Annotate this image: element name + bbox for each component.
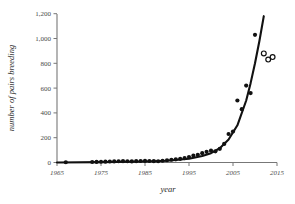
y-tick-label-600: 600 xyxy=(41,85,52,93)
data-point xyxy=(152,159,156,163)
data-point xyxy=(99,160,103,164)
data-point xyxy=(108,159,112,163)
y-axis-title: number of pairs breeding xyxy=(6,45,16,131)
data-point xyxy=(218,147,222,151)
data-point xyxy=(240,107,244,111)
data-point xyxy=(205,150,209,154)
data-point xyxy=(187,155,191,159)
scatter-plot: 0 200 400 600 800 1,000 1,200 1965 1975 … xyxy=(0,0,295,204)
data-point xyxy=(231,129,235,133)
data-point xyxy=(90,160,94,164)
data-point xyxy=(117,159,121,163)
data-point xyxy=(103,160,107,164)
data-point xyxy=(112,159,116,163)
chart-container: 0 200 400 600 800 1,000 1,200 1965 1975 … xyxy=(0,0,295,204)
data-point xyxy=(161,159,165,163)
data-point xyxy=(209,149,213,153)
x-tick-label-1965: 1965 xyxy=(50,169,65,177)
x-axis-title: year xyxy=(159,184,176,194)
data-point xyxy=(249,91,253,95)
y-tick-label-400: 400 xyxy=(41,109,52,117)
data-point xyxy=(134,159,138,163)
data-point xyxy=(253,33,257,37)
x-tick-label-1975: 1975 xyxy=(94,169,109,177)
data-point xyxy=(143,159,147,163)
data-point xyxy=(156,159,160,163)
data-point xyxy=(139,159,143,163)
fit-curve-line xyxy=(57,16,264,162)
data-point xyxy=(95,160,99,164)
data-point xyxy=(200,151,204,155)
y-tick-label-800: 800 xyxy=(41,60,52,68)
data-point xyxy=(178,157,182,161)
data-point xyxy=(130,159,134,163)
data-point xyxy=(174,157,178,161)
data-point xyxy=(227,132,231,136)
data-point xyxy=(183,156,187,160)
y-tick-label-1000: 1,000 xyxy=(35,35,51,43)
x-tick-label-2005: 2005 xyxy=(226,169,241,177)
y-tick-labels: 0 200 400 600 800 1,000 1,200 xyxy=(35,10,51,167)
data-point xyxy=(213,149,217,153)
data-points-observed xyxy=(64,33,257,165)
data-point xyxy=(261,51,266,56)
data-point xyxy=(235,98,239,102)
y-tick-label-0: 0 xyxy=(48,159,52,167)
data-point xyxy=(125,159,129,163)
data-point xyxy=(222,142,226,146)
data-point xyxy=(165,158,169,162)
x-tick-label-1985: 1985 xyxy=(138,169,153,177)
data-point xyxy=(191,154,195,158)
data-point xyxy=(244,84,248,88)
data-point xyxy=(147,159,151,163)
x-tick-label-1995: 1995 xyxy=(182,169,197,177)
data-point xyxy=(270,55,275,60)
y-tick-label-200: 200 xyxy=(41,134,52,142)
data-point xyxy=(64,160,68,164)
x-tick-labels: 1965 1975 1985 1995 2005 2015 xyxy=(50,169,285,177)
data-point xyxy=(121,159,125,163)
x-tick-label-2015: 2015 xyxy=(270,169,285,177)
data-point xyxy=(196,153,200,157)
data-point xyxy=(169,158,173,162)
axes-group xyxy=(57,14,277,163)
data-points-projected xyxy=(261,51,275,62)
y-tick-label-1200: 1,200 xyxy=(35,10,51,18)
